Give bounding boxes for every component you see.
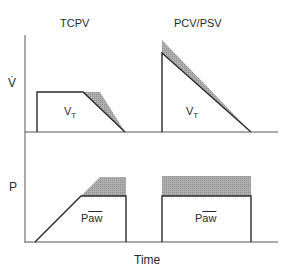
ventilation-diagram: [0, 0, 298, 273]
flow-axis-label: V̇: [8, 76, 16, 90]
tcpv-title: TCPV: [60, 17, 89, 29]
pressure-axis-label: P: [9, 180, 17, 194]
tcpv-tidal-volume-label: VT: [64, 105, 76, 117]
pcv-tidal-volume-label: VT: [186, 105, 198, 117]
pcv-mean-airway-pressure-label: Paw: [195, 212, 216, 224]
paw-overline: aw: [88, 212, 102, 224]
tcpv-pressure-shaded-region: [81, 177, 126, 196]
paw-overline: aw: [202, 212, 216, 224]
pcv-psv-title: PCV/PSV: [174, 17, 222, 29]
tcpv-mean-airway-pressure-label: Paw: [81, 212, 102, 224]
vt-sub: T: [71, 111, 76, 120]
time-axis-label: Time: [134, 253, 160, 267]
pcv-pressure-shaded-region: [162, 176, 251, 196]
pcv-flow-waveform: [162, 53, 251, 132]
vt-sub: T: [193, 111, 198, 120]
pcv-flow-shaded-region: [162, 40, 251, 132]
